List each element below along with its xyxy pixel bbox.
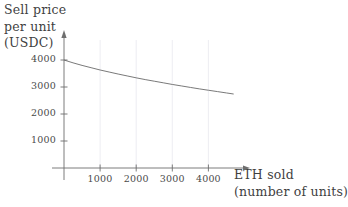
gridlines xyxy=(100,40,208,168)
x-axis-arrow-icon xyxy=(243,165,250,170)
axis-ticks xyxy=(61,60,209,172)
y-axis-arrow-icon xyxy=(61,30,66,38)
